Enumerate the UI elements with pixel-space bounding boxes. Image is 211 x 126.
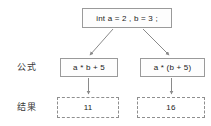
result-right-value: 16 [166, 103, 175, 112]
formula-right-text: a * (b + 5) [154, 63, 192, 72]
formula-box-right: a * (b + 5) [140, 58, 205, 77]
declaration-text: int a = 2 , b = 3 ; [96, 14, 158, 23]
declaration-box: int a = 2 , b = 3 ; [82, 8, 172, 28]
result-left-value: 11 [84, 103, 93, 112]
row-label-formula: 公式 [17, 62, 36, 73]
arrow-decl-to-formula-right [143, 29, 169, 55]
arrow-decl-to-formula-left [90, 29, 113, 55]
result-box-left: 11 [57, 97, 119, 118]
diagram-canvas: int a = 2 , b = 3 ; 公式 a * b + 5 a * (b … [0, 0, 211, 126]
formula-left-text: a * b + 5 [73, 63, 105, 72]
result-box-right: 16 [137, 97, 205, 118]
row-label-result: 结果 [17, 102, 36, 113]
formula-box-left: a * b + 5 [60, 58, 118, 77]
